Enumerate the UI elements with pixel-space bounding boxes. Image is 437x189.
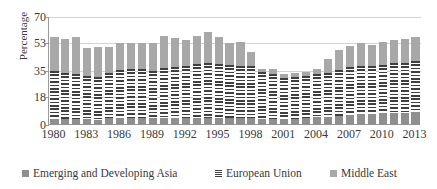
bar-segment	[357, 114, 365, 125]
bar-column	[247, 52, 255, 125]
bar-column	[236, 42, 244, 125]
bar-segment	[390, 113, 398, 125]
bar-column	[390, 40, 398, 125]
bar-segment	[313, 117, 321, 125]
bar-segment	[171, 67, 179, 118]
bar-segment	[411, 61, 419, 112]
bar-column	[204, 32, 212, 125]
bar-segment	[313, 74, 321, 117]
y-axis-tick-18: 18	[14, 91, 46, 103]
bar-segment	[127, 43, 135, 69]
y-axis-tick-53: 53	[14, 37, 46, 49]
bar-segment	[324, 73, 332, 116]
bar-segment	[83, 48, 91, 76]
bar-column	[357, 43, 365, 125]
bar-column	[401, 39, 409, 125]
bar-segment	[280, 78, 288, 119]
bar-segment	[94, 120, 102, 125]
bar-segment	[182, 40, 190, 66]
bar-column	[138, 43, 146, 125]
bar-segment	[193, 36, 201, 65]
bar-segment	[50, 37, 58, 71]
bar-column	[258, 69, 266, 125]
bar-segment	[368, 45, 376, 67]
bar-column	[280, 74, 288, 125]
bar-segment	[72, 74, 80, 119]
bar-column	[215, 37, 223, 125]
bar-segment	[379, 113, 387, 125]
bar-segment	[335, 116, 343, 125]
bar-segment	[411, 112, 419, 125]
chart-legend: Emerging and Developing AsiaEuropean Uni…	[0, 164, 437, 182]
bar-segment	[324, 59, 332, 73]
legend-swatch-middle-east	[330, 170, 337, 177]
bar-column	[368, 45, 376, 125]
legend-label: European Union	[226, 167, 302, 179]
bar-segment	[247, 118, 255, 125]
bar-segment	[160, 36, 168, 68]
bar-segment	[401, 39, 409, 63]
bar-series-group	[49, 17, 421, 125]
bar-segment	[236, 66, 244, 118]
bar-segment	[116, 70, 124, 118]
bar-column	[94, 47, 102, 125]
bar-segment	[215, 64, 223, 118]
bar-segment	[204, 118, 212, 125]
x-axis-tick-labels: 1980198319861989199219951998200120042007…	[0, 127, 437, 145]
bar-column	[116, 43, 124, 125]
bar-segment	[236, 42, 244, 66]
bar-segment	[269, 119, 277, 125]
bar-segment	[335, 70, 343, 116]
bar-segment	[94, 77, 102, 119]
bar-column	[61, 39, 69, 125]
bar-segment	[357, 66, 365, 114]
bar-segment	[280, 119, 288, 125]
bar-segment	[127, 69, 135, 118]
bar-segment	[215, 118, 223, 125]
bar-segment	[171, 38, 179, 67]
bar-segment	[149, 71, 157, 118]
legend-label: Middle East	[341, 167, 397, 179]
bar-segment	[302, 76, 310, 118]
bar-column	[160, 36, 168, 125]
legend-item-2[interactable]: European Union	[215, 167, 302, 179]
bar-segment	[138, 43, 146, 69]
bar-column	[379, 42, 387, 125]
bar-segment	[346, 67, 354, 115]
bar-column	[346, 46, 354, 125]
bar-segment	[247, 66, 255, 118]
bar-segment	[182, 118, 190, 125]
bar-segment	[225, 65, 233, 118]
bar-column	[83, 48, 91, 125]
bar-segment	[215, 37, 223, 64]
bar-segment	[379, 65, 387, 114]
bar-segment	[61, 39, 69, 73]
bar-segment	[171, 118, 179, 125]
bar-segment	[269, 74, 277, 119]
bar-column	[225, 43, 233, 125]
legend-item-3[interactable]: Middle East	[330, 167, 397, 179]
bar-segment	[193, 64, 201, 118]
bar-column	[411, 37, 419, 125]
bar-segment	[401, 113, 409, 125]
bar-column	[313, 69, 321, 125]
bar-segment	[346, 46, 354, 68]
bar-segment	[116, 43, 124, 70]
bar-column	[324, 59, 332, 125]
bar-column	[302, 72, 310, 125]
bar-segment	[357, 43, 365, 66]
y-tickmark-0	[45, 125, 49, 126]
bar-segment	[149, 43, 157, 71]
bar-segment	[72, 37, 80, 74]
legend-swatch-asia	[22, 170, 29, 177]
bar-segment	[83, 76, 91, 119]
legend-label: Emerging and Developing Asia	[33, 167, 177, 179]
bar-segment	[236, 118, 244, 125]
bar-segment	[94, 47, 102, 77]
bar-segment	[258, 72, 266, 119]
x-axis-tick-2013: 2013	[395, 127, 435, 141]
legend-item-1[interactable]: Emerging and Developing Asia	[22, 167, 177, 179]
bar-segment	[127, 118, 135, 125]
bar-segment	[83, 119, 91, 125]
bar-column	[193, 36, 201, 125]
